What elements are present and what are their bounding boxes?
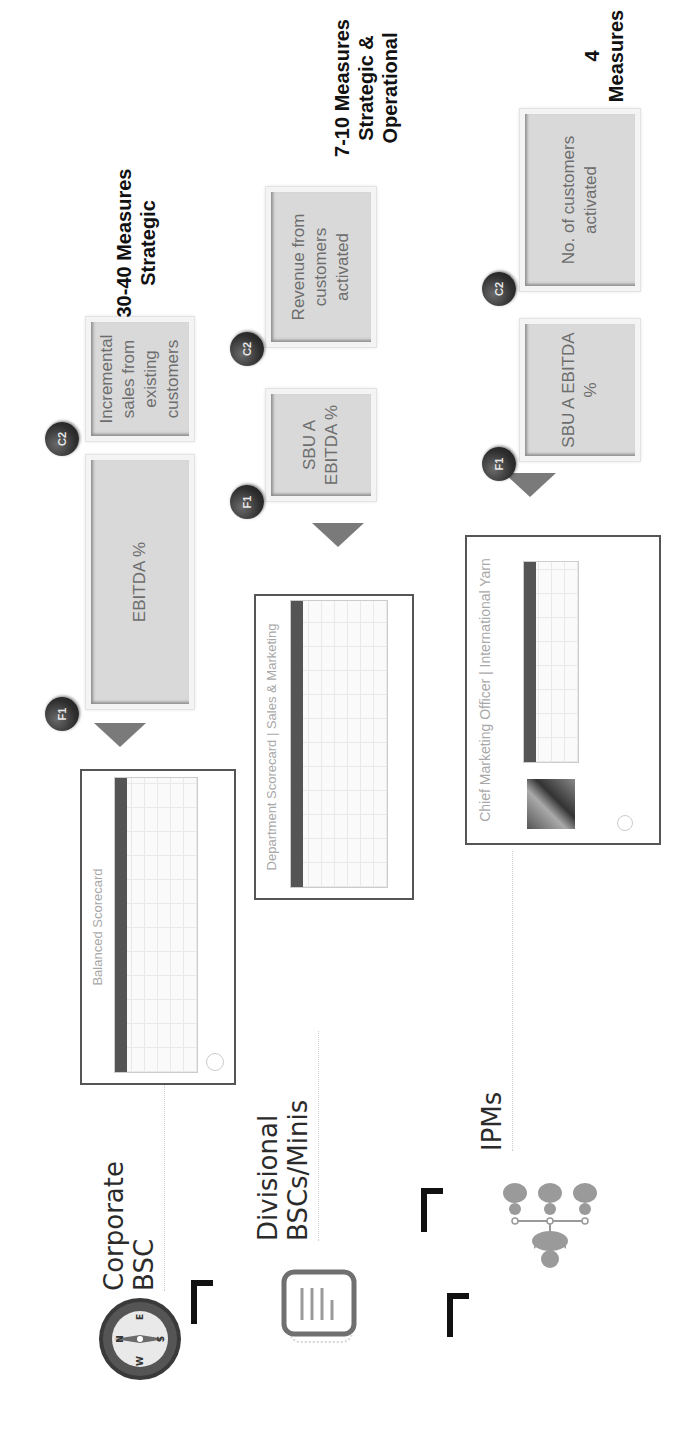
measures-label: 7-10 Measures Strategic & Operational [330,3,402,173]
kpi-text: SBU A EBITDA % [558,324,602,456]
kpi-badge-f1: F1 [482,447,516,481]
measures-label: 4 Measures [580,1,628,111]
corporate-level: N E S W Corporate BSC Balanced Scorecard… [0,0,240,1441]
divisional-level: Divisional BSCs/Minis Department Scoreca… [240,0,450,1441]
corporate-label-line-2: BSC [130,1081,160,1291]
thumbnail-logo [617,815,633,831]
kpi-box-c2: No. of customers activated [520,109,640,291]
bracket-marker [191,1280,213,1324]
kpi-text: EBITDA % [129,542,151,622]
arrow-down-icon [312,523,364,547]
bracket-marker [447,1293,469,1337]
kpi-badge-c2: C2 [230,332,264,366]
cascade-diagram: N E S W Corporate BSC Balanced Scorecard… [0,0,674,1441]
thumbnail-table [523,561,579,763]
ipms-label-line-1: IPMs [478,851,508,1151]
thumbnail-title: Balanced Scorecard [90,771,105,1083]
kpi-box-f1: EBITDA % [86,455,194,709]
kpi-badge-c2: C2 [45,422,79,456]
kpi-box-f1: SBU A EBITDA % [520,319,640,461]
arrow-down-icon [94,723,146,747]
kpi-text: Incremental sales from existing customer… [96,322,184,436]
kpi-badge-f1: F1 [230,485,264,519]
ipms-level: IPMs Chief Marketing Officer | Internati… [450,0,674,1441]
compass-letter-s: S [156,1336,166,1342]
kpi-badge-c2: C2 [482,272,516,306]
ipms-label: IPMs [478,851,513,1151]
kpi-box-c2: Revenue from customers activated [266,187,376,347]
divisional-label-line-1: Divisional [254,1031,284,1241]
bracket-marker [421,1188,443,1232]
compass-icon: N E S W [98,1297,182,1381]
compass-letter-n: N [115,1335,125,1343]
thumbnail-title: Department Scorecard | Sales & Marketing [264,596,279,898]
thumbnail-table [290,600,388,888]
corporate-label: Corporate BSC [100,1081,165,1291]
measures-label: 30-40 Measures Strategic [112,163,160,323]
department-scorecard-thumbnail[interactable]: Department Scorecard | Sales & Marketing [254,594,414,900]
org-chart-icon [500,1171,600,1271]
thumbnail-table [114,777,198,1073]
kpi-text: SBU A EBITDA % [299,394,343,496]
ipm-thumbnail[interactable]: Chief Marketing Officer | International … [465,535,661,845]
document-icon [280,1266,360,1346]
kpi-badge-f1: F1 [45,697,79,731]
kpi-box-f1: SBU A EBITDA % [266,389,376,501]
corporate-label-line-1: Corporate [100,1081,130,1291]
thumbnail-title: Chief Marketing Officer | International … [477,537,493,843]
thumbnail-logo [206,1053,224,1071]
thumbnail-photo [527,779,575,829]
kpi-text: Revenue from customers activated [288,192,354,342]
kpi-box-c2: Incremental sales from existing customer… [86,317,194,441]
compass-letter-w: W [135,1356,145,1366]
arrow-down-icon [504,473,556,497]
divisional-label-line-2: BSCs/Minis [284,1031,314,1241]
compass-letter-e: E [135,1314,145,1320]
divisional-label: Divisional BSCs/Minis [254,1031,319,1241]
balanced-scorecard-thumbnail[interactable]: Balanced Scorecard [80,769,236,1085]
kpi-text: No. of customers activated [558,114,602,286]
